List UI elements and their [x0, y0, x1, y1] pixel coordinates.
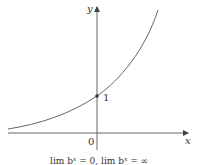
origin-label: 0 [88, 136, 94, 147]
caption: lim bx = 0, lim bx = ∞ [50, 155, 148, 165]
intercept-point [95, 94, 99, 98]
exponential-curve [8, 10, 158, 129]
y-axis-label: y [86, 3, 93, 14]
x-axis-label: x [185, 135, 191, 146]
point-label: 1 [103, 92, 109, 103]
exponential-graph: 1 y x 0 lim bx = 0, lim bx = ∞ [0, 0, 201, 165]
